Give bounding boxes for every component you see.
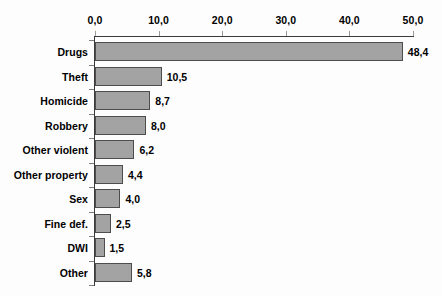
- bar-row: Homicide8,7: [0, 89, 442, 114]
- bar-row: Other5,8: [0, 261, 442, 286]
- x-tick-label: 30,0: [275, 14, 296, 26]
- category-label: DWI: [67, 242, 88, 254]
- bar: [95, 263, 132, 282]
- x-axis-line: [94, 36, 414, 37]
- bar-row: Other violent6,2: [0, 138, 442, 163]
- x-tick-label: 20,0: [212, 14, 233, 26]
- bar-chart: 0,010,020,030,040,050,0 Drugs48,4Theft10…: [0, 0, 442, 296]
- y-tick-mark: [89, 114, 94, 115]
- y-tick-mark: [89, 40, 94, 41]
- bar-value-label: 5,8: [137, 267, 152, 279]
- bar-value-label: 6,2: [139, 144, 154, 156]
- y-tick-mark: [89, 285, 94, 286]
- y-tick-mark: [89, 261, 94, 262]
- category-label: Drugs: [57, 46, 88, 58]
- bar-value-label: 48,4: [408, 46, 428, 58]
- bar-row: DWI1,5: [0, 236, 442, 261]
- y-tick-mark: [89, 138, 94, 139]
- bar-value-label: 4,4: [128, 169, 143, 181]
- bar: [95, 140, 134, 159]
- x-tick-mark: [95, 31, 96, 36]
- bar-row: Other property4,4: [0, 163, 442, 188]
- category-label: Theft: [62, 71, 88, 83]
- y-tick-mark: [89, 65, 94, 66]
- x-tick-mark: [286, 31, 287, 36]
- category-label: Other: [60, 267, 88, 279]
- y-tick-mark: [89, 89, 94, 90]
- bar: [95, 238, 105, 257]
- x-tick-label: 10,0: [148, 14, 169, 26]
- y-tick-mark: [89, 163, 94, 164]
- bar-value-label: 8,0: [151, 120, 166, 132]
- x-tick-mark: [349, 31, 350, 36]
- bar-value-label: 4,0: [125, 193, 140, 205]
- bar: [95, 214, 111, 233]
- bar-row: Drugs48,4: [0, 40, 442, 65]
- bar: [95, 42, 403, 61]
- x-tick-label: 0,0: [88, 14, 103, 26]
- bar: [95, 91, 150, 110]
- bar: [95, 189, 120, 208]
- x-axis-tick-labels: 0,010,020,030,040,050,0: [0, 14, 442, 30]
- y-tick-mark: [89, 212, 94, 213]
- bar-value-label: 1,5: [110, 242, 125, 254]
- bar-value-label: 10,5: [167, 71, 187, 83]
- bar: [95, 67, 162, 86]
- bar: [95, 165, 123, 184]
- category-label: Fine def.: [44, 218, 88, 230]
- x-tick-mark: [413, 31, 414, 36]
- x-tick-label: 50,0: [403, 14, 424, 26]
- plot-area: Drugs48,4Theft10,5Homicide8,7Robbery8,0O…: [0, 40, 442, 286]
- bar-row: Robbery8,0: [0, 114, 442, 139]
- category-label: Sex: [69, 193, 88, 205]
- y-tick-mark: [89, 187, 94, 188]
- category-label: Other violent: [23, 144, 88, 156]
- x-tick-label: 40,0: [339, 14, 360, 26]
- bar-value-label: 2,5: [116, 218, 131, 230]
- x-tick-mark: [222, 31, 223, 36]
- category-label: Other property: [14, 169, 88, 181]
- bar-row: Sex4,0: [0, 187, 442, 212]
- bar-value-label: 8,7: [155, 95, 170, 107]
- category-label: Robbery: [45, 120, 88, 132]
- bar-row: Fine def.2,5: [0, 212, 442, 237]
- category-label: Homicide: [40, 95, 88, 107]
- x-tick-mark: [159, 31, 160, 36]
- y-tick-mark: [89, 236, 94, 237]
- bar-row: Theft10,5: [0, 65, 442, 90]
- bar: [95, 116, 146, 135]
